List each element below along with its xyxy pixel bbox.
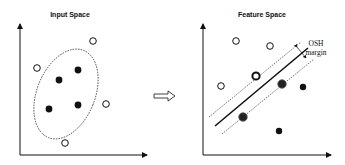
open-points [34,38,110,147]
kernel-boundary-ellipse [22,40,111,149]
input-space-panel: Input Space [20,11,147,155]
filled-points [46,67,82,113]
support-vector-open [252,72,259,79]
support-vector-filled [278,80,287,89]
optimal-separating-hyperplane [215,48,308,126]
input-space-title: Input Space [50,11,90,19]
margin-line-lower [222,59,314,134]
support-vector-filled [239,113,248,122]
svm-diagram: Input Space Feature Space OSH margin [0,0,345,165]
feature-space-panel: Feature Space OSH margin [203,11,331,155]
filled-points [239,80,306,135]
transform-arrow-icon [154,91,175,101]
open-points [218,38,274,90]
feature-space-title: Feature Space [238,11,286,19]
margin-label: margin [305,48,326,57]
osh-label: OSH [308,39,324,48]
